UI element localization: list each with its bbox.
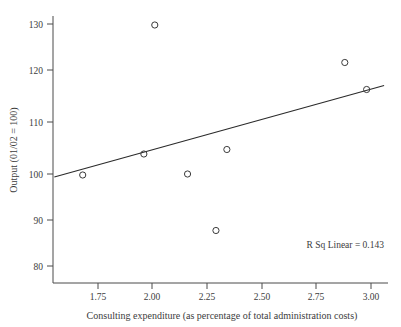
y-axis-title: Output (01/02 = 100) — [8, 107, 20, 192]
data-point — [80, 172, 86, 178]
plot-canvas: 130 120 110 100 90 80 1.75 2.00 2.25 2.5… — [0, 0, 401, 327]
x-tick-label-2-00: 2.00 — [144, 292, 161, 302]
data-point — [342, 59, 348, 65]
y-tick-label-90: 90 — [34, 216, 44, 226]
y-tick-label-120: 120 — [29, 66, 44, 76]
x-axis-title: Consulting expenditure (as percentage of… — [87, 310, 358, 322]
x-tick-label-1-75: 1.75 — [90, 292, 107, 302]
y-axis-ticks — [47, 24, 53, 266]
data-points-group — [80, 22, 370, 234]
x-tick-label-2-25: 2.25 — [199, 292, 216, 302]
x-axis-tick-labels: 1.75 2.00 2.25 2.50 2.75 3.00 — [90, 292, 380, 302]
x-tick-label-2-75: 2.75 — [308, 292, 325, 302]
y-tick-label-130: 130 — [29, 20, 44, 30]
x-axis-ticks — [98, 283, 371, 289]
scatter-plot-figure: 130 120 110 100 90 80 1.75 2.00 2.25 2.5… — [0, 0, 401, 327]
linear-fit-line — [54, 86, 384, 178]
x-tick-label-3-00: 3.00 — [363, 292, 380, 302]
data-point — [213, 227, 219, 233]
y-tick-label-100: 100 — [29, 170, 44, 180]
data-point — [152, 22, 158, 28]
data-point — [184, 171, 190, 177]
data-point — [224, 146, 230, 152]
y-tick-label-80: 80 — [34, 262, 44, 272]
x-tick-label-2-50: 2.50 — [254, 292, 271, 302]
y-tick-label-110: 110 — [29, 118, 43, 128]
y-axis-tick-labels: 130 120 110 100 90 80 — [29, 20, 44, 272]
r-squared-annotation: R Sq Linear = 0.143 — [307, 240, 385, 250]
